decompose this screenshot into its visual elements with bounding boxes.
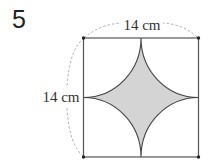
- corner-dot-top-left: [82, 36, 85, 39]
- geometry-figure: 14 cm 14 cm: [0, 0, 213, 168]
- corner-dot-top-right: [197, 36, 200, 39]
- corner-dot-bottom-right: [197, 155, 200, 158]
- top-length-label: 14 cm: [123, 17, 160, 33]
- corner-dot-bottom-left: [82, 155, 85, 158]
- left-length-label: 14 cm: [42, 89, 79, 105]
- shaded-star-region: [84, 38, 199, 157]
